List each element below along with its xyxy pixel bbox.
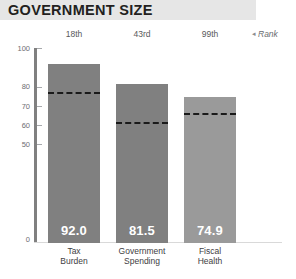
bar-caption-line-2: Spending — [110, 256, 174, 266]
government-size-chart: GOVERNMENT SIZE 18th 43rd 99th ◂Rank 100… — [0, 0, 296, 279]
bar-caption-fiscal-health: Fiscal Health — [184, 246, 236, 266]
left-arrow-icon: ◂ — [252, 30, 256, 37]
bar-caption-line-2: Burden — [48, 256, 100, 266]
bar-value-government-spending: 81.5 — [116, 223, 168, 238]
rank-caption-label: Rank — [258, 29, 278, 39]
reference-line-fiscal-health — [184, 113, 236, 115]
y-tick-label-50: 50 — [8, 141, 30, 149]
y-tick-mark-80 — [37, 87, 42, 88]
bar-caption-line-2: Health — [184, 256, 236, 266]
bar-caption-line-1: Government — [110, 246, 174, 256]
bar-caption-government-spending: Government Spending — [110, 246, 174, 266]
y-tick-label-0: 0 — [8, 236, 30, 244]
rank-label-fiscal-health: 99th — [184, 29, 236, 39]
y-tick-mark-100 — [37, 48, 42, 49]
bar-caption-line-1: Fiscal — [184, 246, 236, 256]
rank-caption: ◂Rank — [252, 29, 278, 39]
bar-government-spending[interactable]: 81.5 — [116, 84, 168, 243]
y-tick-mark-70 — [37, 106, 42, 107]
reference-line-government-spending — [116, 122, 168, 124]
rank-label-tax-burden: 18th — [48, 29, 100, 39]
y-tick-label-70: 70 — [8, 103, 30, 111]
bar-caption-tax-burden: Tax Burden — [48, 246, 100, 266]
rank-label-government-spending: 43rd — [116, 29, 168, 39]
y-tick-label-80: 80 — [8, 83, 30, 91]
y-tick-label-60: 60 — [8, 122, 30, 130]
bar-caption-line-1: Tax — [48, 246, 100, 256]
bar-value-tax-burden: 92.0 — [48, 223, 100, 238]
y-axis-line — [34, 48, 37, 243]
bar-value-fiscal-health: 74.9 — [184, 223, 236, 238]
reference-line-tax-burden — [48, 92, 100, 94]
bar-fiscal-health[interactable]: 74.9 — [184, 97, 236, 243]
y-tick-label-100: 100 — [8, 45, 30, 53]
bar-tax-burden[interactable]: 92.0 — [48, 64, 100, 243]
y-tick-mark-50 — [37, 144, 42, 145]
page-title: GOVERNMENT SIZE — [8, 2, 153, 18]
y-tick-mark-60 — [37, 125, 42, 126]
